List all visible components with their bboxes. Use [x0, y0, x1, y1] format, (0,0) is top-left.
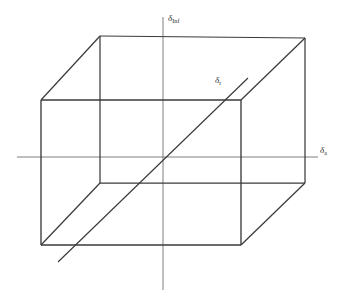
axes-group: [17, 17, 318, 290]
depth-edge-bottom-right: [241, 183, 305, 245]
body-diagonal-group: [58, 78, 248, 262]
cube-depth-edges: [41, 36, 305, 245]
vertical-axis-label: δInf: [168, 8, 179, 24]
back-top-edge: [100, 36, 305, 38]
figure-canvas: δInf δa δr: [0, 0, 342, 301]
vertical-axis-label-subscript: Inf: [172, 18, 179, 24]
diagonal-label: δr: [215, 70, 221, 86]
body-diagonal-line: [58, 78, 248, 262]
depth-edge-bottom-left: [41, 183, 100, 245]
cube-back-face: [100, 36, 305, 183]
horizontal-axis-label-subscript: a: [324, 150, 327, 156]
depth-edge-top-right: [241, 38, 305, 100]
diagonal-label-subscript: r: [219, 80, 221, 86]
horizontal-axis-label: δa: [320, 140, 327, 156]
cube-front-face: [41, 100, 241, 245]
depth-edge-top-left: [41, 36, 100, 100]
cube-diagram-svg: [0, 0, 342, 301]
